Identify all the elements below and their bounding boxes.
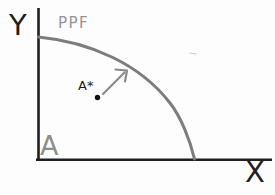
x-axis-label: X [245, 158, 265, 187]
point-a-dot [95, 95, 100, 100]
ppf-diagram: Y PPF A* A X [0, 0, 275, 195]
ppf-curve-label: PPF [58, 16, 89, 31]
origin-region-label: A [40, 132, 58, 159]
stray-mark [190, 53, 197, 54]
y-axis-label: Y [9, 11, 27, 40]
diagram-drawing [0, 0, 275, 195]
arrow-shaft [103, 73, 125, 95]
point-a-label: A* [78, 79, 93, 92]
ppf-curve [39, 37, 195, 159]
